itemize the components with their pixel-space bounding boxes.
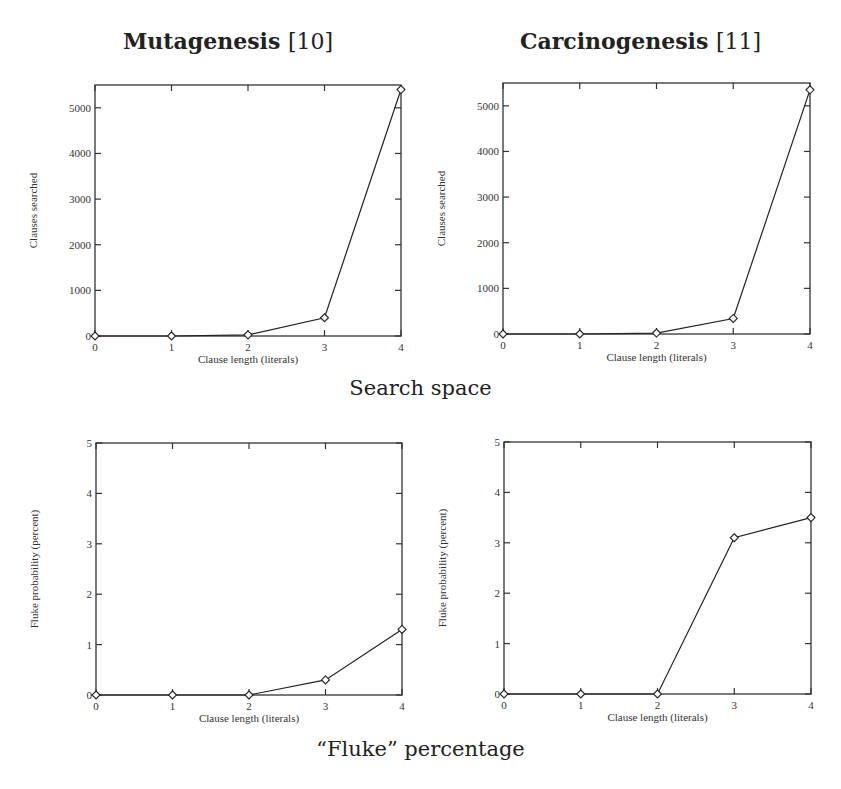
line-chart: 01000200030004000500001234Clause length … (435, 83, 814, 364)
diamond-marker-icon (499, 330, 507, 338)
diamond-marker-icon (500, 690, 508, 698)
y-tick-label: 4000 (69, 147, 92, 159)
x-tick-label: 3 (323, 700, 329, 712)
x-tick-label: 4 (398, 341, 404, 353)
diamond-marker-icon (321, 314, 329, 322)
diamond-marker-icon (168, 332, 176, 340)
line-chart: 01000200030004000500001234Clause length … (27, 85, 405, 366)
x-tick-label: 2 (245, 341, 251, 353)
diamond-marker-icon (576, 330, 584, 338)
diamond-marker-icon (245, 691, 253, 699)
x-tick-label: 4 (807, 339, 813, 351)
x-axis-label: Clause length (literals) (607, 711, 708, 724)
y-tick-label: 4000 (477, 145, 500, 157)
diamond-marker-icon (91, 332, 99, 340)
y-tick-label: 2000 (69, 239, 92, 251)
x-tick-label: 2 (655, 699, 661, 711)
x-tick-label: 0 (501, 699, 507, 711)
y-tick-label: 3000 (477, 191, 500, 203)
diamond-marker-icon (653, 329, 661, 337)
charts-canvas: 01000200030004000500001234Clause length … (0, 0, 841, 789)
y-tick-label: 5 (495, 436, 501, 448)
plot-frame (503, 83, 810, 334)
x-tick-label: 2 (246, 700, 252, 712)
diamond-marker-icon (398, 625, 406, 633)
y-tick-label: 2000 (477, 237, 500, 249)
x-tick-label: 1 (170, 700, 176, 712)
y-tick-label: 3000 (69, 193, 92, 205)
diamond-marker-icon (244, 331, 252, 339)
y-tick-label: 1000 (477, 282, 500, 294)
x-tick-label: 4 (399, 700, 405, 712)
y-axis-label: Clauses searched (27, 172, 39, 248)
data-line (95, 90, 401, 336)
x-tick-label: 3 (731, 339, 737, 351)
y-tick-label: 1000 (69, 284, 92, 296)
x-axis-label: Clause length (literals) (199, 712, 300, 725)
y-axis-label: Clauses searched (435, 170, 447, 246)
diamond-marker-icon (654, 690, 662, 698)
plot-frame (504, 442, 811, 694)
x-tick-label: 0 (92, 341, 98, 353)
plot-frame (95, 85, 401, 336)
diamond-marker-icon (577, 690, 585, 698)
y-tick-label: 3 (495, 537, 501, 549)
y-tick-label: 5000 (477, 100, 500, 112)
y-tick-label: 3 (87, 538, 93, 550)
line-chart: 01234501234Clause length (literals)Fluke… (436, 436, 815, 724)
data-line (503, 90, 810, 334)
y-tick-label: 4 (87, 487, 93, 499)
diamond-marker-icon (730, 534, 738, 542)
x-tick-label: 3 (732, 699, 738, 711)
y-tick-label: 4 (495, 486, 501, 498)
data-line (96, 629, 402, 695)
y-tick-label: 5 (87, 437, 93, 449)
x-tick-label: 4 (808, 699, 814, 711)
y-axis-label: Fluke probability (percent) (28, 509, 41, 628)
y-tick-label: 1 (87, 639, 93, 651)
y-tick-label: 2 (495, 587, 501, 599)
x-tick-label: 0 (93, 700, 99, 712)
x-tick-label: 1 (169, 341, 175, 353)
x-tick-label: 1 (578, 699, 584, 711)
diamond-marker-icon (806, 86, 814, 94)
data-line (504, 518, 811, 694)
diamond-marker-icon (92, 691, 100, 699)
y-tick-label: 5000 (69, 102, 92, 114)
x-axis-label: Clause length (literals) (198, 353, 299, 366)
x-axis-label: Clause length (literals) (606, 351, 707, 364)
diamond-marker-icon (169, 691, 177, 699)
line-chart: 01234501234Clause length (literals)Fluke… (28, 437, 406, 725)
x-tick-label: 2 (654, 339, 660, 351)
y-tick-label: 1 (495, 638, 501, 650)
diamond-marker-icon (397, 86, 405, 94)
y-tick-label: 2 (87, 588, 93, 600)
diamond-marker-icon (322, 676, 330, 684)
plot-frame (96, 443, 402, 695)
x-tick-label: 3 (322, 341, 328, 353)
x-tick-label: 0 (500, 339, 506, 351)
diamond-marker-icon (807, 514, 815, 522)
y-axis-label: Fluke probability (percent) (436, 508, 449, 627)
x-tick-label: 1 (577, 339, 583, 351)
diamond-marker-icon (729, 314, 737, 322)
